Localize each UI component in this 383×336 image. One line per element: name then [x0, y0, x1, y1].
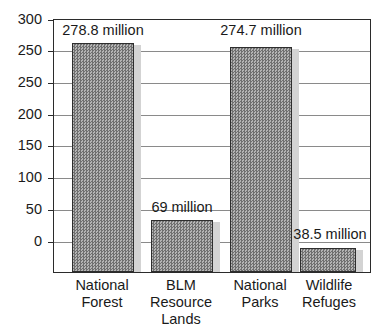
bar-group-national-parks [230, 20, 302, 272]
y-tick-label: 50 [0, 202, 47, 216]
bar-group-national-forest [72, 20, 144, 272]
bar-blm-resource-lands[interactable] [151, 220, 213, 272]
x-tick-label-blm-resource-lands: BLM Resource Lands [150, 277, 212, 328]
y-tick-mark [48, 210, 54, 211]
y-tick-mark [48, 146, 54, 147]
y-tick-label: 200 [0, 107, 47, 121]
y-tick-label: 250 [0, 75, 47, 89]
y-tick-label: 100 [0, 170, 47, 184]
y-tick-mark [48, 83, 54, 84]
bar-wildlife-refuges[interactable] [300, 248, 356, 272]
value-label-national-forest: 278.8 million [62, 23, 143, 38]
y-tick-mark [48, 115, 54, 116]
x-axis-labels: National Forest BLM Resource Lands Natio… [53, 277, 371, 335]
bar-chart-figure: 300 250 250 200 150 100 50 0 [0, 0, 383, 336]
value-label-wildlife-refuges: 38.5 million [293, 227, 366, 242]
y-tick-mark [48, 20, 54, 21]
y-tick-label: 250 [0, 43, 47, 57]
value-label-national-parks: 274.7 million [220, 23, 301, 38]
x-tick-label-national-forest: National Forest [75, 277, 128, 311]
y-axis-labels: 300 250 250 200 150 100 50 0 [0, 19, 47, 273]
y-tick-label: 0 [0, 234, 47, 248]
x-tick-label-wildlife-refuges: Wildlife Refuges [302, 277, 356, 311]
x-tick-label-national-parks: National Parks [233, 277, 286, 311]
y-tick-mark [48, 178, 54, 179]
bar-national-parks[interactable] [230, 47, 292, 272]
bar-group-blm-resource-lands [151, 20, 223, 272]
y-tick-mark [48, 242, 54, 243]
bar-national-forest[interactable] [72, 43, 134, 272]
y-tick-label: 300 [0, 12, 47, 26]
y-tick-mark [48, 51, 54, 52]
value-label-blm-resource-lands: 69 million [151, 200, 212, 215]
plot-area: 278.8 million 69 million 274.7 million 3… [53, 19, 371, 273]
y-tick-label: 150 [0, 138, 47, 152]
